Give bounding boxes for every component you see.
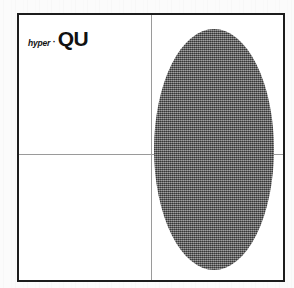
wordmark-name: QU: [58, 28, 89, 49]
wordmark-prefix: hyper: [28, 39, 50, 48]
logo-frame: hyper · QU: [17, 13, 285, 282]
halftone-ellipse-shape: [154, 29, 274, 270]
wordmark-separator-dot: ·: [50, 38, 58, 47]
scanned-page: hyper · QU: [0, 0, 294, 288]
wordmark: hyper · QU: [28, 28, 88, 49]
vertical-rule: [151, 15, 152, 280]
